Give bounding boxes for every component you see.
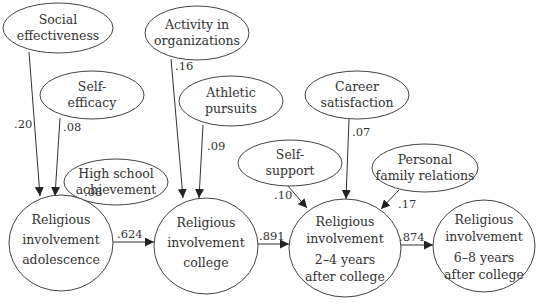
path-coefficient: .624 (117, 227, 143, 241)
path-coefficient: .874 (399, 230, 425, 244)
path-coefficient: .891 (259, 229, 285, 243)
node-label-line: Religious (32, 212, 91, 227)
node-label-line: after college (305, 269, 385, 284)
node-label-line: Personal (398, 152, 453, 167)
node-label-line: Athletic (205, 85, 255, 100)
node-label-line: college (183, 255, 228, 270)
path-coefficient: .16 (175, 59, 193, 73)
path-coefficient: .08 (84, 185, 102, 199)
node-activity: Activity inorganizations (145, 6, 249, 60)
path-coefficient: .09 (207, 139, 225, 153)
node-label-line: Religious (177, 215, 236, 230)
path-coefficient: .20 (14, 117, 32, 131)
node-label-line: involvement (22, 232, 99, 247)
node-ri_24: Religiousinvolvement2–4 yearsafter colle… (289, 199, 401, 297)
diagram-canvas: SocialeffectivenessSelf-efficacyHigh sch… (0, 0, 540, 307)
arrow-activity-to-ri_college (171, 59, 183, 198)
node-label-line: Activity in (164, 17, 229, 32)
node-label-line: Self- (78, 79, 106, 94)
arrow-athletic-to-ri_college (199, 125, 203, 198)
arrow-selfeff-to-ri_adol (55, 118, 60, 196)
node-athletic: Athleticpursuits (179, 76, 283, 126)
node-label-line: organizations (154, 33, 240, 48)
node-label-line: Religious (316, 214, 375, 229)
node-label-line: family relations (376, 168, 475, 183)
node-label-line: 6–8 years (454, 250, 514, 265)
node-label-line: efficacy (68, 95, 118, 110)
node-ri_68: Religiousinvolvement6–8 yearsafter colle… (433, 200, 535, 292)
node-label-line: support (266, 163, 315, 178)
path-coefficient: .10 (274, 188, 292, 202)
node-label-line: adolescence (22, 252, 100, 267)
path-coefficient: .08 (63, 120, 81, 134)
node-family: Personalfamily relations (372, 144, 478, 192)
path-coefficient: .17 (398, 197, 416, 211)
nodes-layer: SocialeffectivenessSelf-efficacyHigh sch… (3, 3, 535, 297)
node-label-line: involvement (167, 235, 244, 250)
node-label-line: 2–4 years (315, 252, 375, 267)
node-label-line: involvement (306, 231, 383, 246)
arrow-family-to-ri_24 (381, 190, 399, 209)
node-label-line: Religious (455, 212, 514, 227)
node-label-line: Career (335, 79, 379, 94)
node-ri_college: Religiousinvolvementcollege (154, 198, 258, 294)
node-ri_adol: Religiousinvolvementadolescence (9, 195, 113, 291)
node-label-line: Self- (276, 147, 304, 162)
node-selfeff: Self-efficacy (40, 71, 144, 119)
path-coefficient: .07 (352, 125, 370, 139)
path-diagram: SocialeffectivenessSelf-efficacyHigh sch… (0, 0, 540, 307)
node-label-line: High school (78, 166, 153, 181)
node-label-line: effectiveness (17, 28, 99, 43)
node-label-line: pursuits (205, 101, 257, 116)
node-label-line: after college (444, 267, 524, 282)
arrow-career-to-ri_24 (346, 119, 349, 199)
node-social: Socialeffectiveness (3, 3, 113, 53)
node-label-line: involvement (445, 229, 522, 244)
node-label-line: satisfaction (321, 95, 394, 110)
node-label-line: Social (39, 12, 78, 27)
node-selfsup: Self-support (238, 140, 342, 186)
node-career: Careersatisfaction (305, 71, 409, 119)
